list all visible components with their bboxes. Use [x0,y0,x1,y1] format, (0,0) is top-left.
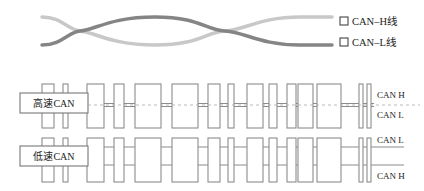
high-speed-can-l-label: CAN L [377,110,404,120]
can-bus-diagram: CAN–H线 CAN–L线 高速CAN CAN H CAN L [0,0,424,191]
low-speed-label: 低速CAN [33,150,74,162]
low-speed-can-l-label: CAN L [377,135,404,145]
legend-label-h: CAN–H线 [352,15,398,27]
legend-label-l: CAN–L线 [352,36,397,48]
low-speed-can-h-label: CAN H [377,171,405,181]
high-speed-label: 高速CAN [33,97,74,109]
legend-checkbox-h [340,17,348,25]
legend: CAN–H线 CAN–L线 [340,15,398,48]
legend-checkbox-l [340,38,348,46]
twisted-pair [42,17,332,45]
high-speed-can-h-label: CAN H [377,90,405,100]
low-speed-row [20,138,404,182]
